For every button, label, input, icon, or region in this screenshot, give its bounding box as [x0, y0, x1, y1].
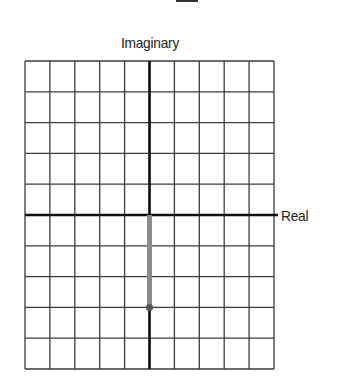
complex-vector — [146, 215, 153, 311]
complex-plane-grid — [0, 0, 338, 387]
vector-endpoint-dot — [146, 304, 153, 311]
